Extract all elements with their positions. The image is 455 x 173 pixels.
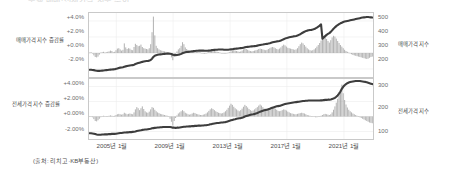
jeonse-price-panel — [88, 78, 374, 140]
jeonse-tick-left-3: -2.00% — [28, 126, 84, 132]
sale-tick-right-1: 400 — [378, 28, 408, 34]
x-tick-4: 2021년 1월 — [314, 142, 374, 149]
sale-tick-left-2: +0.0% — [34, 42, 84, 48]
jeonse-tick-right-2: 100 — [378, 128, 408, 134]
sale-tick-right-2: 300 — [378, 42, 408, 48]
x-tick-2: 2013년 1월 — [198, 142, 258, 149]
sale-price-panel — [88, 12, 374, 78]
jeonse-price-left-axis-title-text: 전세가격 지수 증감률 — [12, 101, 60, 107]
sale-price-plot — [89, 13, 373, 77]
sale-tick-left-1: +2.0% — [34, 28, 84, 34]
sale-tick-right-3: 200 — [378, 56, 408, 62]
sale-tick-right-0: 500 — [378, 14, 408, 20]
jeonse-price-plot — [89, 79, 373, 139]
jeonse-tick-right-0: 300 — [378, 82, 408, 88]
x-tick-1: 2009년 1월 — [140, 142, 200, 149]
x-tick-3: 2017년 1월 — [256, 142, 316, 149]
jeonse-tick-right-1: 200 — [378, 104, 408, 110]
source-note: (출처: 리치고·KB부동산) — [33, 156, 98, 165]
sale-tick-left-3: -2.0% — [34, 56, 84, 62]
jeonse-tick-left-1: +2.00% — [28, 95, 84, 101]
jeonse-tick-left-2: +0.00% — [28, 110, 84, 116]
jeonse-price-left-axis-title: 전세가격 지수 증감률 — [4, 101, 60, 108]
clipped-figure-title: 주택 매매·전세가격 지수 추이 — [28, 0, 148, 2]
sale-tick-left-0: +4.0% — [34, 14, 84, 20]
jeonse-tick-left-0: +4.00% — [28, 80, 84, 86]
x-tick-0: 2005년 1월 — [82, 142, 142, 149]
chart-figure: 주택 매매·전세가격 지수 추이 매매가격 지수 증감률 매매가격 지수 +4.… — [0, 0, 455, 173]
